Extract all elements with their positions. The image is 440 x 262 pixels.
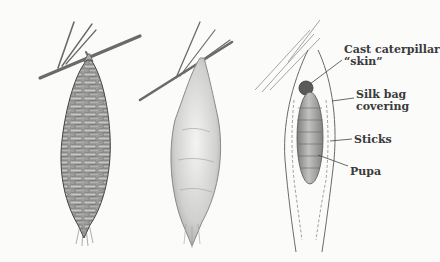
stick-case-panel (40, 22, 140, 246)
leader-sticks (330, 139, 352, 141)
pine-twig-3 (255, 20, 320, 92)
leader-cast-skin (310, 60, 342, 84)
silk-case-panel (140, 22, 232, 248)
silk-bag (171, 58, 221, 246)
leader-silk-bag (332, 98, 354, 101)
pupa (297, 92, 323, 184)
stick-bag (61, 60, 110, 238)
cutaway-panel (255, 20, 354, 252)
label-cast-skin: Cast caterpillar “skin” (344, 44, 440, 68)
label-pupa: Pupa (350, 166, 381, 178)
label-sticks: Sticks (354, 134, 392, 146)
label-silk-bag: Silk bag covering (356, 89, 409, 113)
